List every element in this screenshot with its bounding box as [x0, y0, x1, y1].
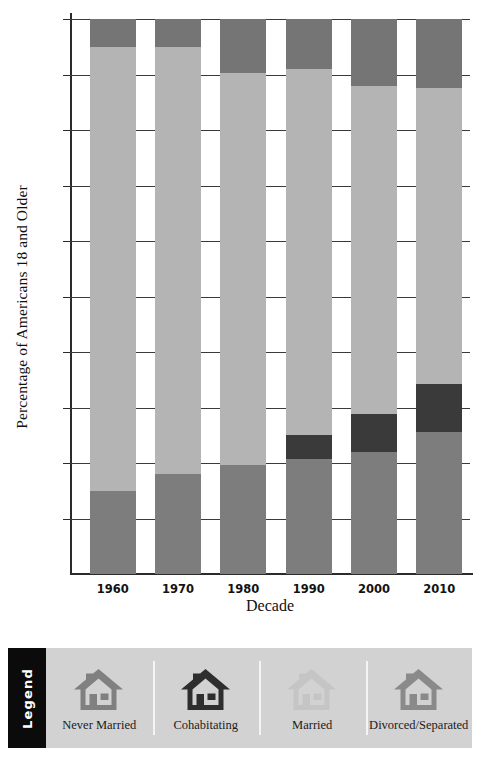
- house-icon: [392, 664, 446, 716]
- y-tick-mark-90: [63, 75, 70, 76]
- legend-item-cohabitating[interactable]: Cohabitating: [153, 648, 260, 748]
- bar-segment-2010-never-married[interactable]: [416, 432, 462, 574]
- y-tick-mark-100: [63, 19, 70, 20]
- bar-segment-1990-divorced-separated[interactable]: [286, 19, 332, 69]
- y-tick-mark-60: [63, 241, 70, 242]
- legend-title-bar: Legend: [8, 648, 46, 748]
- y-tick-mark-70: [63, 186, 70, 187]
- bar-segment-1980-divorced-separated[interactable]: [220, 19, 266, 73]
- house-icon: [179, 664, 233, 716]
- bar-segment-1970-divorced-separated[interactable]: [155, 19, 201, 47]
- bar-segment-2010-married[interactable]: [416, 88, 462, 384]
- bar-segment-2000-divorced-separated[interactable]: [351, 19, 397, 86]
- legend-label: Divorced/Separated: [369, 718, 468, 733]
- house-icon: [72, 664, 126, 716]
- y-tick-mark-20: [63, 463, 70, 464]
- stacked-bar-chart: Percentage of Americans 18 and Older 10%…: [0, 0, 480, 640]
- legend-items: Never MarriedCohabitatingMarriedDivorced…: [46, 648, 472, 748]
- plot-area: 10%20%30%40%50%60%70%80%90%100% 19601970…: [70, 19, 470, 574]
- legend-item-never-married[interactable]: Never Married: [46, 648, 153, 748]
- legend-label: Cohabitating: [173, 718, 238, 733]
- bar-segment-1960-divorced-separated[interactable]: [90, 19, 136, 47]
- x-tick-label-2010: 2010: [399, 582, 479, 596]
- bar-segment-1970-married[interactable]: [155, 47, 201, 474]
- bar-segment-1980-never-married[interactable]: [220, 465, 266, 574]
- bar-segment-2000-cohabitating[interactable]: [351, 414, 397, 452]
- legend-label: Never Married: [62, 718, 136, 733]
- y-tick-mark-40: [63, 352, 70, 353]
- bar-segment-1990-never-married[interactable]: [286, 459, 332, 574]
- legend-label: Married: [292, 718, 332, 733]
- bar-segment-1970-never-married[interactable]: [155, 474, 201, 574]
- bar-segment-1990-married[interactable]: [286, 69, 332, 435]
- bar-segment-1960-married[interactable]: [90, 47, 136, 491]
- y-axis-line: [70, 13, 72, 574]
- y-tick-mark-50: [63, 297, 70, 298]
- house-icon: [285, 664, 339, 716]
- legend: Legend Never MarriedCohabitatingMarriedD…: [8, 648, 472, 748]
- legend-title: Legend: [20, 668, 35, 729]
- bar-segment-1960-never-married[interactable]: [90, 491, 136, 574]
- x-axis-title: Decade: [70, 597, 470, 615]
- y-tick-mark-10: [63, 519, 70, 520]
- y-axis-title: Percentage of Americans 18 and Older: [13, 97, 31, 517]
- y-tick-mark-30: [63, 408, 70, 409]
- bar-segment-2000-never-married[interactable]: [351, 452, 397, 574]
- legend-item-divorced-separated[interactable]: Divorced/Separated: [366, 648, 473, 748]
- legend-item-married[interactable]: Married: [259, 648, 366, 748]
- y-tick-mark-80: [63, 130, 70, 131]
- bar-segment-1990-cohabitating[interactable]: [286, 435, 332, 459]
- bar-segment-2010-divorced-separated[interactable]: [416, 19, 462, 88]
- bar-segment-2010-cohabitating[interactable]: [416, 384, 462, 432]
- bar-segment-1980-married[interactable]: [220, 73, 266, 464]
- bar-segment-2000-married[interactable]: [351, 86, 397, 414]
